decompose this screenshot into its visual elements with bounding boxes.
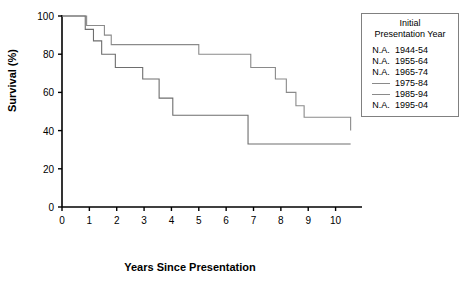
- legend-entry: 1975-84: [365, 78, 455, 89]
- x-axis-title: Years Since Presentation: [0, 261, 380, 273]
- x-axis-tick-label: 8: [278, 215, 284, 226]
- legend-entry: N.A.1944-54: [365, 45, 455, 56]
- legend-entry-label: 1965-74: [395, 67, 428, 78]
- legend-not-available-marker: N.A.: [371, 56, 391, 67]
- legend-entry: N.A.1995-04: [365, 100, 455, 111]
- legend-line-swatch: [371, 78, 391, 89]
- y-axis-tick-label: 40: [18, 125, 54, 136]
- legend-entry-label: 1975-84: [395, 78, 428, 89]
- legend-box: Initial Presentation Year N.A.1944-54N.A…: [361, 13, 459, 117]
- legend-title-line-1: Initial: [365, 18, 455, 29]
- legend-entry-list: N.A.1944-54N.A.1955-64N.A.1965-741975-84…: [365, 45, 455, 111]
- x-axis-tick-label: 6: [223, 215, 229, 226]
- y-axis-tick-label: 80: [18, 49, 54, 60]
- legend-entry-label: 1944-54: [395, 45, 428, 56]
- x-axis-tick-label: 3: [141, 215, 147, 226]
- survival-chart-figure: 020406080100 012345678910 Survival (%) Y…: [0, 0, 466, 285]
- legend-line-icon: [372, 94, 390, 95]
- y-axis-tick-label: 20: [18, 163, 54, 174]
- legend-not-available-marker: N.A.: [371, 100, 391, 111]
- x-axis-tick-label: 2: [114, 215, 120, 226]
- y-axis-tick-label: 0: [18, 202, 54, 213]
- legend-entry-label: 1995-04: [395, 100, 428, 111]
- legend-not-available-marker: N.A.: [371, 67, 391, 78]
- legend-entry: N.A.1955-64: [365, 56, 455, 67]
- legend-entry-label: 1985-94: [395, 89, 428, 100]
- legend-title-line-2: Presentation Year: [365, 29, 455, 40]
- x-axis-tick-label: 4: [169, 215, 175, 226]
- legend-entry: N.A.1965-74: [365, 67, 455, 78]
- legend-line-swatch: [371, 89, 391, 100]
- x-axis-tick-label: 5: [196, 215, 202, 226]
- x-axis-tick-label: 0: [59, 215, 65, 226]
- x-axis-tick-label: 9: [305, 215, 311, 226]
- legend-not-available-marker: N.A.: [371, 45, 391, 56]
- y-axis-title: Survival (%): [6, 49, 18, 112]
- y-axis-tick-label: 100: [18, 11, 54, 22]
- legend-entry: 1985-94: [365, 89, 455, 100]
- x-axis-tick-label: 7: [251, 215, 257, 226]
- legend-line-icon: [372, 83, 390, 84]
- legend-entry-label: 1955-64: [395, 56, 428, 67]
- x-axis-tick-label: 1: [87, 215, 93, 226]
- y-axis-tick-label: 60: [18, 87, 54, 98]
- x-axis-tick-label: 10: [330, 215, 341, 226]
- survival-curve-1975-84: [62, 16, 351, 131]
